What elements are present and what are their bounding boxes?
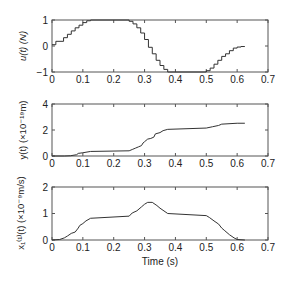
x-tick-label: 0.3	[138, 158, 152, 169]
y-tick-label: 0	[42, 235, 48, 246]
x-tick-label: 0.2	[107, 74, 121, 85]
x-tick-label: 0.6	[230, 74, 244, 85]
x-tick-label: 0.5	[199, 158, 213, 169]
x-tick-label: 0.4	[168, 158, 182, 169]
x-tick-labels: 00.10.20.30.40.50.60.7	[49, 158, 275, 169]
y-axis-label-y: y(t) (×10⁻¹⁹m)	[17, 101, 28, 160]
plot-area	[52, 104, 268, 156]
y-tick-label: 1	[42, 208, 48, 219]
y-tick-label: 0	[42, 41, 48, 52]
y-tick-label: 0	[42, 151, 48, 162]
x-tick-label: 0.3	[138, 74, 152, 85]
y-tick-label: −1	[37, 67, 49, 78]
y-tick-label: 2	[42, 125, 48, 136]
x-tick-label: 0.6	[230, 242, 244, 253]
figure: 00.10.20.30.40.50.60.7 −101 u(t) (N) 00.…	[0, 0, 293, 282]
x-tick-label: 0	[49, 74, 55, 85]
plot-area	[52, 187, 268, 240]
x-tick-label: 0.4	[168, 74, 182, 85]
x-tick-label: 0.2	[107, 158, 121, 169]
x-tick-label: 0.5	[199, 74, 213, 85]
x-tick-label: 0.1	[76, 158, 90, 169]
x-tick-label: 0.2	[107, 242, 121, 253]
x-tick-label: 0	[49, 158, 55, 169]
x-tick-label: 0.1	[76, 74, 90, 85]
y-tick-label: 1	[42, 15, 48, 26]
y-axis-label-x1: x₁⁽¹⁾(t) (×10⁻⁹m/s)	[15, 176, 26, 250]
x-tick-label: 0.6	[230, 158, 244, 169]
x-tick-label: 0.7	[261, 158, 275, 169]
x-tick-label: 0.7	[261, 242, 275, 253]
x-tick-label: 0.3	[138, 242, 152, 253]
panel-y: 00.10.20.30.40.50.60.7 024 y(t) (×10⁻¹⁹m…	[17, 99, 275, 170]
y-tick-labels: −101	[37, 15, 49, 78]
y-tick-label: 2	[42, 182, 48, 193]
panel-u: 00.10.20.30.40.50.60.7 −101 u(t) (N)	[17, 15, 275, 86]
x-tick-labels: 00.10.20.30.40.50.60.7	[49, 242, 275, 253]
y-axis-label-u: u(t) (N)	[17, 31, 28, 61]
y-tick-labels: 024	[42, 99, 48, 162]
x-tick-labels: 00.10.20.30.40.50.60.7	[49, 74, 275, 85]
x-tick-label: 0.5	[199, 242, 213, 253]
x-axis-label: Time (s)	[142, 256, 178, 267]
y-tick-labels: 012	[42, 182, 48, 246]
panel-x1: 00.10.20.30.40.50.60.7 012 x₁⁽¹⁾(t) (×10…	[15, 176, 275, 253]
x-tick-label: 0	[49, 242, 55, 253]
x-tick-label: 0.4	[168, 242, 182, 253]
x-tick-label: 0.1	[76, 242, 90, 253]
y-tick-label: 4	[42, 99, 48, 110]
x-tick-label: 0.7	[261, 74, 275, 85]
